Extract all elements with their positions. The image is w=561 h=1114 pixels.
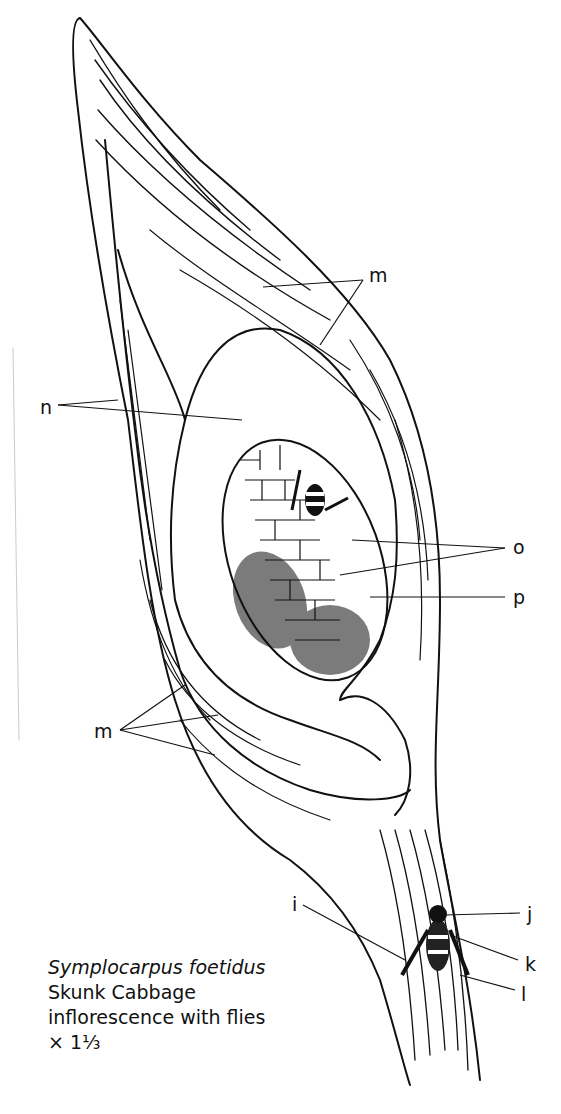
label-m-spathe-lower: m: [94, 722, 113, 741]
caption-description: inflorescence with flies: [48, 1005, 265, 1030]
caption-magnification: × 1⅓: [48, 1030, 265, 1055]
label-p: p: [513, 588, 525, 607]
figure-caption: Symplocarpus foetidus Skunk Cabbage infl…: [48, 955, 265, 1055]
skunk-cabbage-drawing: [0, 0, 561, 1114]
label-l: l: [521, 985, 526, 1004]
illustration-canvas: m n o p m i j k l Symplocarpus foetidus …: [0, 0, 561, 1114]
caption-common-name: Skunk Cabbage: [48, 980, 265, 1005]
label-i: i: [292, 895, 297, 914]
label-n: n: [40, 398, 52, 417]
label-k: k: [525, 955, 536, 974]
label-o: o: [513, 538, 525, 557]
label-m-spathe-upper: m: [369, 266, 388, 285]
caption-scientific-name: Symplocarpus foetidus: [48, 955, 265, 980]
label-j: j: [527, 905, 532, 924]
